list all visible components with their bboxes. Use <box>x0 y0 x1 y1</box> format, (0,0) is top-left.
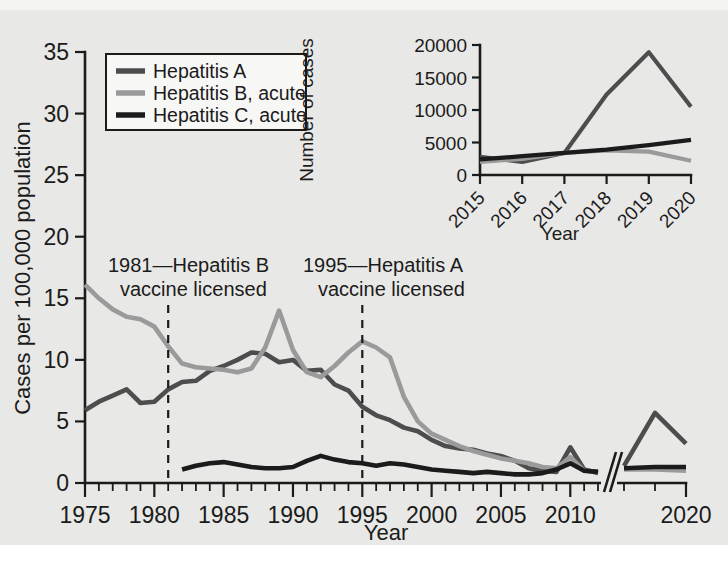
annotation-hepa-line1: 1995—Hepatitis A <box>303 254 464 276</box>
chart-figure: 05101520253035 Cases per 100,000 populat… <box>0 0 728 567</box>
main-x-axis: 197519801985199019952000200520102020 Yea… <box>59 483 711 545</box>
main-series-group <box>85 285 686 475</box>
inset-y-axis-label: Number of cases <box>296 38 317 182</box>
main-x-tick-label: 2020 <box>660 502 711 528</box>
annotation-hepb-line2: vaccine licensed <box>120 278 267 300</box>
legend-label-hepatitis-c: Hepatitis C, acute <box>153 104 307 126</box>
main-x-tick-label: 1990 <box>267 502 318 528</box>
main-y-tick-label: 0 <box>56 470 69 496</box>
inset-x-tick-label: 2020 <box>655 187 700 232</box>
main-x-tick-label: 2005 <box>475 502 526 528</box>
legend-label-hepatitis-b: Hepatitis B, acute <box>153 82 306 104</box>
inset-x-axis-label: Year <box>541 223 580 244</box>
legend: Hepatitis A Hepatitis B, acute Hepatitis… <box>106 54 307 130</box>
inset-y-axis: 05000100001500020000 Number of cases <box>296 35 480 186</box>
main-y-axis: 05101520253035 Cases per 100,000 populat… <box>10 39 85 496</box>
inset-y-tick-label: 10000 <box>414 100 467 121</box>
main-y-tick-label: 5 <box>56 408 69 434</box>
main-x-tick-label: 1980 <box>129 502 180 528</box>
series-line-hepatitis-a <box>85 353 598 474</box>
main-x-axis-label: Year <box>364 520 408 545</box>
annotation-hepa-line2: vaccine licensed <box>318 278 465 300</box>
inset-series-line-hepatitis-c-acute <box>480 140 691 160</box>
annotation-hepa-vaccine: 1995—Hepatitis A vaccine licensed <box>303 254 465 300</box>
main-x-tick-label: 1975 <box>59 502 110 528</box>
axis-break-marker <box>601 452 622 492</box>
inset-x-tick-label: 2015 <box>444 187 489 232</box>
hepatitis-incidence-chart: 05101520253035 Cases per 100,000 populat… <box>0 0 728 567</box>
inset-x-tick-label: 2016 <box>486 187 531 232</box>
annotation-lines-group <box>168 305 362 483</box>
main-y-axis-label: Cases per 100,000 population <box>10 121 35 415</box>
annotation-hepb-line1: 1981—Hepatitis B <box>108 254 269 276</box>
main-x-tick-label: 2010 <box>545 502 596 528</box>
inset-y-tick-label: 0 <box>456 165 467 186</box>
inset-y-tick-label: 15000 <box>414 68 467 89</box>
inset-series-group <box>480 52 691 162</box>
main-x-tick-label: 1985 <box>198 502 249 528</box>
main-y-tick-label: 35 <box>43 39 69 65</box>
inset-x-axis: 201520162017201820192020 Year <box>444 175 700 244</box>
main-y-tick-label: 20 <box>43 224 69 250</box>
legend-label-hepatitis-a: Hepatitis A <box>153 60 246 82</box>
main-y-tick-label: 25 <box>43 162 69 188</box>
main-y-tick-label: 10 <box>43 347 69 373</box>
series-line-hepatitis-a <box>624 413 686 466</box>
main-y-tick-label: 15 <box>43 285 69 311</box>
series-line-hepatitis-b-acute <box>85 285 598 472</box>
inset-x-tick-label: 2019 <box>613 187 658 232</box>
annotation-hepb-vaccine: 1981—Hepatitis B vaccine licensed <box>108 254 269 300</box>
inset-y-tick-label: 20000 <box>414 35 467 56</box>
main-y-tick-label: 30 <box>43 101 69 127</box>
main-x-tick-label: 2000 <box>406 502 457 528</box>
inset-chart: 05000100001500020000 Number of cases 201… <box>296 35 700 244</box>
inset-y-tick-label: 5000 <box>425 133 467 154</box>
series-line-hepatitis-c-acute <box>624 467 686 468</box>
